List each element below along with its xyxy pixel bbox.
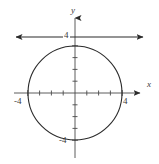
y-tick-label-negative-four: -4 (59, 136, 67, 145)
y-axis-label: y (71, 6, 75, 15)
plot-canvas (0, 0, 159, 164)
x-tick-label-negative-four: -4 (14, 97, 22, 106)
x-axis-group (14, 90, 140, 96)
x-tick-label-positive-four: 4 (123, 97, 128, 106)
y-axis-group (72, 18, 78, 158)
y-tick-label-positive-four: 4 (63, 31, 70, 40)
x-axis-label: x (147, 80, 151, 89)
graph-figure: y x -4 4 -4 4 (0, 0, 159, 164)
